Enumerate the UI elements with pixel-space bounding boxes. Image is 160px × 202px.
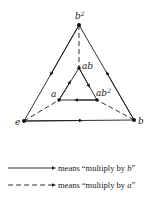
cayley-diagram: b2 e b ab a ab2 means “multiply by b” me… <box>0 0 160 202</box>
label-b: b <box>138 116 144 126</box>
node-a <box>57 98 60 101</box>
edge-b-to-b2-arrow <box>107 73 134 120</box>
node-ab <box>77 66 80 69</box>
legend-solid: means “multiply by b” <box>8 163 135 173</box>
outer-triangle <box>24 25 134 121</box>
legend-solid-text: means “multiply by b” <box>58 163 135 173</box>
node-b <box>132 118 136 122</box>
dashed-spokes <box>24 25 134 121</box>
edge-a-to-ab-arrow <box>59 82 70 100</box>
inner-triangle <box>59 68 97 100</box>
node-ab2 <box>95 98 98 101</box>
node-b2 <box>77 23 81 27</box>
legend-dashed: means “multiply by a” <box>8 180 135 190</box>
edge-e-to-a <box>24 100 59 121</box>
legend-dashed-text: means “multiply by a” <box>58 180 135 190</box>
node-e <box>22 119 26 123</box>
label-ab: ab <box>82 61 93 71</box>
label-ab2: ab2 <box>96 87 111 98</box>
label-e: e <box>15 117 20 127</box>
legend: means “multiply by b” means “multiply by… <box>8 163 135 190</box>
label-a: a <box>51 89 56 99</box>
edge-b2-to-e-arrow <box>51 25 79 74</box>
edge-e-to-b-arrow <box>24 121 81 122</box>
label-b2: b2 <box>75 10 85 21</box>
